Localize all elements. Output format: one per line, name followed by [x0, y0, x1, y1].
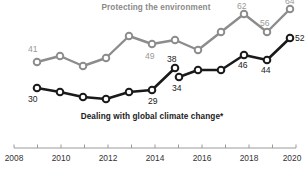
point-label-climate-2019: 52	[295, 34, 305, 43]
point-label-climate-2017: 46	[238, 61, 248, 70]
x-tick-label-2010: 2010	[47, 153, 75, 163]
point-label-climate-2013: 29	[148, 97, 158, 106]
chart-container: Protecting the environment Dealing with …	[0, 0, 306, 171]
point-label-environment-2013: 49	[145, 52, 155, 61]
x-tick-label-2012: 2012	[94, 153, 122, 163]
point-label-climate-2018: 44	[261, 66, 271, 75]
series-markers-climate	[34, 35, 294, 103]
point-label-climate-2014: 38	[167, 55, 177, 64]
point-label-environment-2008: 41	[28, 45, 38, 54]
x-axis-ticks	[14, 145, 296, 149]
x-tick-label-2020: 2020	[278, 153, 306, 163]
point-label-climate-2008: 30	[28, 95, 38, 104]
series-annotation-environment: Protecting the environment	[86, 3, 226, 13]
x-tick-label-2016: 2016	[188, 153, 216, 163]
series-markers-environment	[34, 6, 294, 70]
point-label-environment-2017: 62	[237, 2, 247, 11]
series-annotation-climate: Dealing with global climate change*	[78, 112, 226, 122]
x-tick-label-2008: 2008	[0, 153, 28, 163]
point-label-climate-2015: 34	[172, 84, 182, 93]
x-tick-label-2014: 2014	[141, 153, 169, 163]
x-tick-label-2018: 2018	[235, 153, 263, 163]
point-label-environment-2019: 64	[285, 0, 295, 6]
point-label-environment-2018: 56	[260, 19, 270, 28]
